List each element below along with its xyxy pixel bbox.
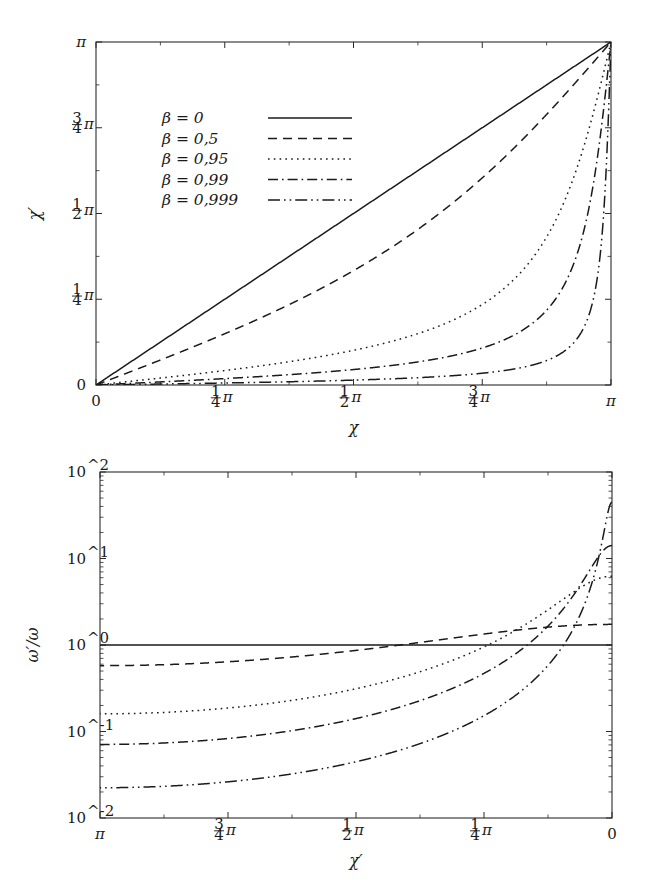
legend-label: β = 0 [161,109,204,127]
frac-denominator: 4 [468,393,478,411]
tick-label: π [605,392,617,410]
tick-label: 10^1 [67,543,109,568]
y-axis-label: χ′ [25,206,44,221]
legend-item: β = 0,5 [161,130,352,148]
tick-exponent: ^2 [87,456,109,474]
tick-label: 34π [214,815,237,844]
frac-denominator: 4 [72,291,82,309]
tick-exponent: ^1 [87,543,109,561]
tick-value: 0 [76,376,86,394]
tick-mantissa: 10 [67,723,86,741]
tick-value: 0 [91,392,101,410]
tick-value: π [94,825,106,843]
tick-mantissa: 10 [67,550,86,568]
tick-label: 14π [470,815,493,844]
tick-label: 0 [91,392,101,410]
tick-unit: π [481,821,493,839]
frac-denominator: 2 [340,393,350,411]
curves-group [96,42,611,385]
tick-label: 10^2 [67,456,109,481]
frac-denominator: 4 [72,119,82,137]
frac-denominator: 4 [211,393,221,411]
tick-label: 14π [72,280,95,309]
tick-unit: π [222,388,234,406]
tick-unit: π [83,115,95,133]
tick-unit: π [83,201,95,219]
tick-label: 34π [468,382,491,411]
tick-value: π [605,392,617,410]
tick-unit: π [83,286,95,304]
tick-exponent: ^-2 [87,802,114,820]
legend: β = 0β = 0,5β = 0,95β = 0,99β = 0,999 [161,109,352,209]
curve-aberration-0 [96,42,611,385]
legend-label: β = 0,5 [161,130,218,148]
tick-unit: π [351,388,363,406]
tick-exponent: ^-1 [87,716,114,734]
tick-label: 12π [342,815,365,844]
tick-label: 14π [211,382,234,411]
x-axis-label: χ′ [348,851,363,870]
tick-mantissa: 10 [67,636,86,654]
legend-item: β = 0,95 [161,150,352,168]
frac-denominator: 4 [470,826,480,844]
tick-value: 0 [607,825,617,843]
frac-denominator: 4 [214,826,224,844]
tick-label: π [75,33,87,51]
tick-label: 12π [340,382,363,411]
curves-group [100,502,612,788]
tick-mantissa: 10 [67,463,86,481]
tick-label: 10^-1 [67,716,114,741]
tick-label: 10^-2 [67,802,114,827]
physics-figure: 014π12π34ππ014π12π34ππχχ′π34π12π14π010^-… [0,0,649,893]
legend-label: β = 0,95 [161,150,228,168]
tick-label: π [94,825,106,843]
tick-label: 0 [76,376,86,394]
frac-denominator: 2 [342,826,352,844]
tick-unit: π [353,821,365,839]
frac-denominator: 2 [72,205,82,223]
x-axis-label: χ [348,418,360,437]
figure-canvas: 014π12π34ππ014π12π34ππχχ′π34π12π14π010^-… [0,0,649,893]
legend-item: β = 0,99 [161,171,352,189]
tick-label: 10^0 [67,629,109,654]
legend-label: β = 0,99 [161,171,228,189]
tick-label: 34π [72,109,95,138]
y-axis-label: ω′/ω [23,627,42,662]
tick-unit: π [479,388,491,406]
tick-label: 12π [72,195,95,224]
legend-item: β = 0 [161,109,352,127]
plot-panel-aberration: 014π12π34ππ014π12π34ππχχ′ [25,33,617,437]
legend-label: β = 0,999 [161,191,238,209]
legend-item: β = 0,999 [161,191,352,209]
tick-unit: π [225,821,237,839]
tick-label: 0 [607,825,617,843]
plot-panel-doppler: π34π12π14π010^-210^-110^010^110^2χ′ω′/ω [23,456,617,870]
tick-value: π [75,33,87,51]
tick-mantissa: 10 [67,809,86,827]
